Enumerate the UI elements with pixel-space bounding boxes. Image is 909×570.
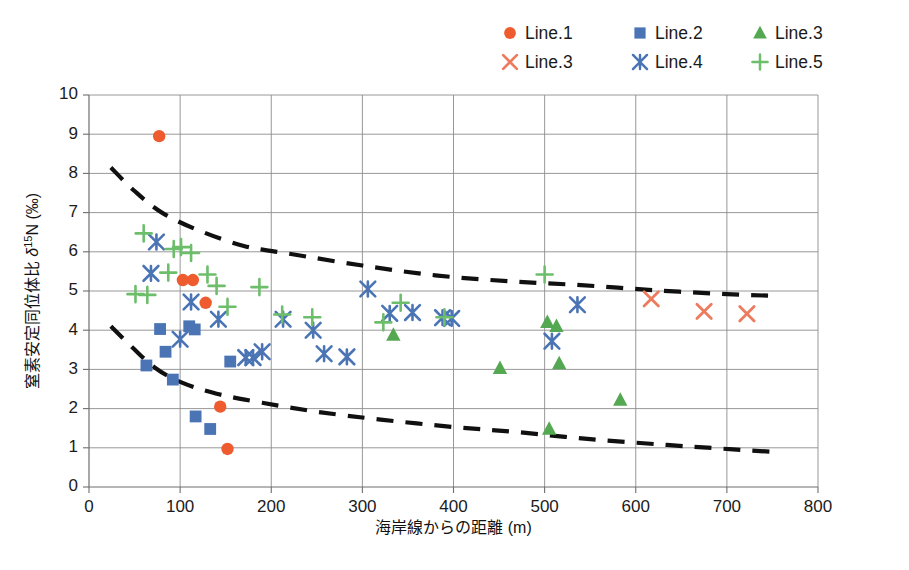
data-point [221,443,233,455]
x-tick-label: 100 [166,497,194,516]
chart-container: 0123456789100100200300400500600700800 海岸… [0,0,909,570]
star-icon [633,55,647,69]
y-tick-label: 2 [69,398,78,417]
data-point [255,344,270,359]
data-point [184,295,199,310]
data-point [160,346,172,358]
square-icon [190,411,202,423]
scatter-plot: 0123456789100100200300400500600700800 海岸… [0,0,909,570]
data-point [173,332,188,347]
data-point [199,297,211,309]
star-icon [317,346,332,361]
data-point [251,279,267,295]
y-tick-label: 3 [69,359,78,378]
legend-label: Line.3 [775,23,823,43]
grid-layer [89,95,818,487]
legend-item-2[interactable]: Line.2 [634,23,702,43]
legend-label: Line.3 [525,52,573,72]
data-point [166,241,182,257]
star-icon [173,332,188,347]
x-tick-label: 400 [439,497,467,516]
triangle-icon [540,315,554,329]
star-icon [238,350,253,365]
data-point [274,307,290,323]
circle-icon [214,400,226,412]
plus-icon [537,267,553,283]
data-point [209,278,225,294]
data-point [141,360,153,372]
star-icon [246,350,261,365]
star-icon [211,312,226,327]
x-axis-title: 海岸線からの距離 (m) [375,519,531,536]
plus-icon [166,241,182,257]
legend-label: Line.4 [655,52,703,72]
data-point [493,360,507,374]
x-icon [697,304,711,318]
star-icon [255,344,270,359]
data-points-layer [127,130,754,455]
square-icon [189,324,201,336]
star-icon [339,349,354,364]
legend-label: Line.1 [525,23,573,43]
legend-marker-star [633,55,647,69]
data-point [537,267,553,283]
data-point [167,374,179,386]
triangle-icon [493,360,507,374]
data-point [144,266,159,281]
data-point [160,265,176,281]
plus-icon [199,267,215,283]
legend-item-3[interactable]: Line.3 [753,23,823,43]
data-point [238,350,253,365]
square-icon [160,346,172,358]
legend-item-1[interactable]: Line.1 [504,23,573,43]
data-point [570,297,585,312]
legend-label: Line.5 [775,52,823,72]
plus-icon [752,54,767,69]
tick-labels-layer: 0123456789100100200300400500600700800 [59,84,832,516]
circle-icon [187,274,199,286]
x-tick-label: 200 [257,497,285,516]
y-tick-label: 1 [69,437,78,456]
legend[interactable]: Line.1Line.2Line.3Line.3Line.4Line.5 [503,23,823,72]
data-point [199,267,215,283]
square-icon [154,323,166,335]
data-point [552,356,566,370]
data-point [211,312,226,327]
x-icon [503,55,517,69]
y-tick-label: 10 [59,84,78,103]
y-tick-label: 4 [69,320,78,339]
circle-icon [153,130,165,142]
plus-icon [136,225,152,241]
legend-item-4[interactable]: Line.3 [503,52,573,72]
data-point [204,423,216,435]
triangle-icon [552,356,566,370]
x-tick-label: 0 [84,497,93,516]
y-tick-label: 7 [69,202,78,221]
axis-titles-layer: 海岸線からの距離 (m)窒素安定同位体比 δ15N (‰) [22,193,532,536]
data-point [139,287,155,303]
upper-envelope [111,168,771,296]
legend-marker-x [503,55,517,69]
y-tick-label: 9 [69,124,78,143]
data-point [187,274,199,286]
data-point [339,349,354,364]
square-icon [224,356,236,368]
x-tick-label: 800 [804,497,832,516]
data-point [214,400,226,412]
x-tick-label: 700 [713,497,741,516]
star-icon [545,334,560,349]
square-icon [167,374,179,386]
data-point [405,305,420,320]
x-icon [740,307,754,321]
legend-label: Line.2 [655,23,703,43]
data-point [220,299,236,315]
data-point [542,421,556,435]
plus-icon [251,279,267,295]
plus-icon [209,278,225,294]
data-point [153,130,165,142]
legend-item-6[interactable]: Line.5 [752,52,822,72]
plus-icon [274,307,290,323]
legend-item-5[interactable]: Line.4 [633,52,703,72]
data-point [545,334,560,349]
plus-icon [160,265,176,281]
